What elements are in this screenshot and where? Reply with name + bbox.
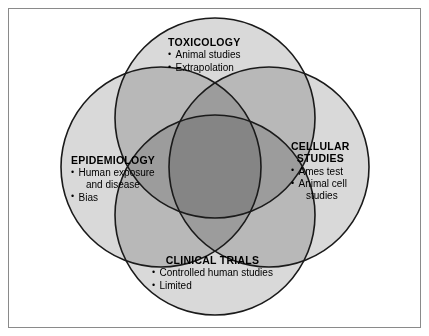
set-item-line-cont: and disease [79,179,156,191]
set-items-toxicology: Animal studies Extrapolation [168,49,241,74]
venn-diagram-figure: TOXICOLOGY Animal studies Extrapolation … [0,0,429,336]
set-label-cellular: CELLULAR STUDIES Ames test Animal cell s… [291,141,350,202]
set-item: Ames test [291,166,350,178]
set-item: Human exposure and disease [71,167,155,191]
set-items-clinical: Controlled human studies Limited [152,267,273,292]
set-items-cellular: Ames test Animal cell studies [291,166,350,202]
set-item-line-cont: studies [299,190,350,202]
set-item-line: Human exposure [79,167,155,178]
set-title-toxicology: TOXICOLOGY [168,36,241,48]
set-item: Animal studies [168,49,241,61]
set-title-epidemiology: EPIDEMIOLOGY [71,154,155,166]
set-item: Limited [152,280,273,292]
set-label-toxicology: TOXICOLOGY Animal studies Extrapolation [168,36,241,74]
set-label-epidemiology: EPIDEMIOLOGY Human exposure and disease … [71,154,155,204]
set-title-clinical: CLINICAL TRIALS [152,254,273,266]
set-item: Bias [71,192,155,204]
set-items-epidemiology: Human exposure and disease Bias [71,167,155,203]
set-item: Extrapolation [168,62,241,74]
set-item-line: Animal cell [299,178,347,189]
set-label-clinical: CLINICAL TRIALS Controlled human studies… [152,254,273,292]
venn-stage: TOXICOLOGY Animal studies Extrapolation … [0,0,429,336]
set-title-cellular: CELLULAR STUDIES [291,141,350,165]
set-item: Animal cell studies [291,178,350,202]
set-item: Controlled human studies [152,267,273,279]
